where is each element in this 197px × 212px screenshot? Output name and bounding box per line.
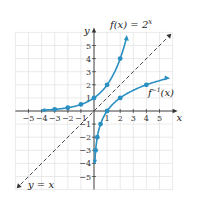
data-point xyxy=(95,135,100,140)
data-point xyxy=(52,107,57,112)
data-point xyxy=(105,109,110,114)
y-axis-arrow-icon xyxy=(92,27,96,32)
label-inverse: f−1(x) xyxy=(147,86,174,98)
x-axis-label: x xyxy=(177,112,183,123)
curve-exponential xyxy=(43,39,126,110)
y-axis-label: y xyxy=(83,25,90,36)
x-tick-label: −4 xyxy=(36,114,48,123)
arrow-icon xyxy=(124,35,129,41)
label-exponential: f(x) = 2x xyxy=(109,18,152,30)
y-tick-label: 5 xyxy=(86,42,91,51)
x-tick-label: 1 xyxy=(105,114,110,123)
x-tick-label: 4 xyxy=(144,114,149,123)
data-point xyxy=(93,148,98,153)
graph-canvas: −5−4−3−2−11234554321−1−2−3−4−5 xyf(x) = … xyxy=(0,0,197,212)
data-point xyxy=(65,105,70,110)
x-tick-label: −3 xyxy=(49,114,61,123)
data-point xyxy=(105,82,110,87)
data-point xyxy=(92,96,97,101)
x-tick-label: 2 xyxy=(118,114,123,123)
y-tick-label: 2 xyxy=(86,81,91,90)
y-tick-label: −5 xyxy=(79,173,91,182)
label-identity: y = x xyxy=(27,179,54,190)
y-tick-label: −2 xyxy=(79,133,91,142)
y-tick-label: −3 xyxy=(79,146,91,155)
arrow-icon xyxy=(164,75,170,80)
data-point xyxy=(118,96,123,101)
y-tick-label: 3 xyxy=(86,68,91,77)
x-tick-label: −2 xyxy=(62,114,74,123)
data-point xyxy=(118,56,123,61)
y-tick-label: 4 xyxy=(86,55,91,64)
x-tick-label: −5 xyxy=(23,114,35,123)
data-point xyxy=(98,122,103,127)
data-point xyxy=(79,102,84,107)
y-tick-label: −4 xyxy=(79,159,91,168)
arrow-icon xyxy=(40,108,45,112)
x-tick-label: 5 xyxy=(157,114,162,123)
x-tick-label: 3 xyxy=(131,114,136,123)
arrow-icon xyxy=(93,160,97,165)
